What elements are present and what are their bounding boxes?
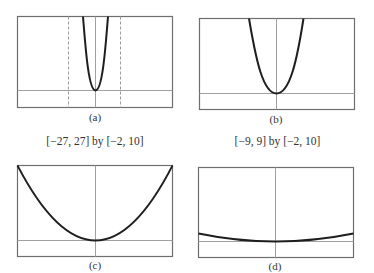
panel-c bbox=[18, 166, 173, 257]
panel-d-label: (d) bbox=[255, 260, 295, 272]
panel-a-label: (a) bbox=[75, 111, 115, 123]
panel-b-label: (b) bbox=[256, 113, 296, 125]
panel-a-window: [−27, 27] by [−2, 10] bbox=[20, 135, 170, 147]
panel-b-window: [−9, 9] by [−2, 10] bbox=[200, 135, 355, 147]
panel-a bbox=[18, 17, 173, 108]
panel-c-label: (c) bbox=[75, 259, 115, 271]
panel-d bbox=[199, 168, 354, 258]
panel-b bbox=[200, 19, 355, 110]
